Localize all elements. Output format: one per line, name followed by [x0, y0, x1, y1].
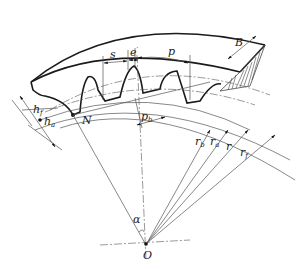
label-p: p [168, 45, 175, 58]
base-circle [35, 113, 290, 160]
pitch-circle [45, 89, 255, 112]
label-s: s [110, 48, 116, 61]
gear-diagram: s e′ p B hf ha N pb rb ra r rf α O [0, 0, 297, 269]
label-pb: pb [141, 110, 153, 124]
label-rb: rb [195, 135, 205, 149]
center-point [144, 242, 148, 246]
label-r: r [226, 140, 232, 153]
label-ra: ra [210, 135, 219, 149]
label-n: N [81, 114, 92, 127]
label-ha: ha [44, 115, 55, 129]
label-hf: hf [33, 103, 44, 117]
label-b: B [234, 36, 243, 49]
label-alpha: α [133, 213, 141, 226]
label-o: O [143, 249, 152, 262]
hatch-section [220, 45, 265, 91]
teeth-profile [31, 66, 221, 115]
gear-rim [31, 34, 265, 91]
